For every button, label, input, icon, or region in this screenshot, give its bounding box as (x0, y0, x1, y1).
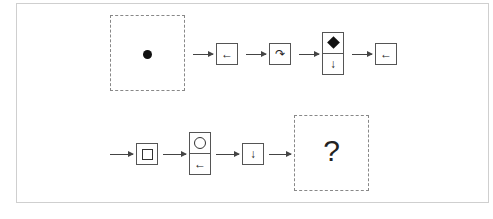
arrow-icon (193, 54, 213, 55)
puzzle-frame (16, 3, 489, 203)
stacked-op: ↓ (322, 32, 344, 75)
rotate-clockwise-icon: ↷ (275, 48, 285, 60)
arrow-icon (163, 154, 186, 155)
square-icon (142, 149, 153, 160)
filled-diamond-icon (327, 36, 340, 49)
left-arrow-op: ← (216, 43, 238, 65)
left-arrow-icon: ← (380, 48, 392, 60)
circle-icon (194, 137, 206, 149)
question-mark: ? (294, 134, 369, 168)
arrow-icon (269, 154, 291, 155)
left-arrow-op: ← (375, 43, 397, 65)
left-arrow-icon: ← (221, 48, 233, 60)
arrow-icon (216, 154, 239, 155)
down-arrow-icon: ↓ (330, 57, 336, 71)
arrow-icon (246, 54, 266, 55)
arrow-icon (299, 54, 319, 55)
arrow-icon (352, 54, 372, 55)
arrow-icon (110, 154, 133, 155)
filled-dot-icon (143, 50, 152, 59)
stacked-op: ← (189, 132, 211, 175)
down-arrow-op: ↓ (242, 143, 264, 165)
square-op (136, 143, 158, 165)
down-arrow-icon: ↓ (250, 148, 256, 160)
rotate-op: ↷ (269, 43, 291, 65)
left-arrow-icon: ← (194, 157, 206, 171)
